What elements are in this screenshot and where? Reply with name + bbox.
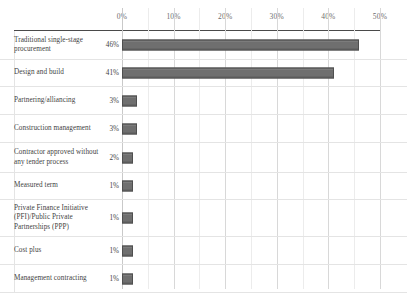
chart-row: Partnering/alliancing3% [0,87,407,115]
value-label: 3% [104,125,119,133]
value-label: 46% [104,41,119,49]
chart-row: Cost plus1% [0,237,407,265]
bar-track [122,143,395,172]
chart-row: Private Finance Initiative (PFI)/Public … [0,200,407,237]
bar [122,123,137,134]
bar-track [122,31,395,59]
bar [122,181,133,192]
category-label: Construction management [14,124,110,134]
bar [122,152,133,163]
x-axis-tick-label: 10% [166,12,180,21]
category-label: Design and build [14,68,110,78]
bar-track [122,200,395,236]
value-label: 2% [104,154,119,162]
bar [122,95,137,106]
chart-row: Construction management3% [0,115,407,143]
x-axis-tick-label: 0% [117,12,127,21]
bar-track [122,115,395,142]
x-axis-tick-labels: 0%10%20%30%40%50% [0,0,407,26]
category-label: Private Finance Initiative (PFI)/Public … [14,204,110,233]
bar [122,40,359,51]
bar [122,273,133,284]
bar-track [122,237,395,264]
chart-rows: Traditional single-stage procurement46%D… [0,31,407,293]
category-label: Measured term [14,181,110,191]
chart-row: Contractor approved without any tender p… [0,143,407,173]
bar [122,68,334,79]
chart-row: Design and build41% [0,60,407,87]
value-label: 41% [104,69,119,77]
category-label: Cost plus [14,246,110,256]
chart-row: Measured term1% [0,173,407,200]
category-label: Traditional single-stage procurement [14,36,110,55]
value-label: 1% [104,275,119,283]
x-axis-tick-label: 50% [373,12,387,21]
value-label: 1% [104,214,119,222]
value-label: 3% [104,97,119,105]
bar [122,213,133,224]
x-axis-tick-label: 30% [270,12,284,21]
chart-row: Management contracting1% [0,265,407,293]
bar [122,245,133,256]
category-label: Management contracting [14,274,110,284]
bar-track [122,60,395,86]
bar-track [122,265,395,292]
bar-track [122,87,395,114]
x-axis-tick-label: 40% [321,12,335,21]
value-label: 1% [104,182,119,190]
chart-row: Traditional single-stage procurement46% [0,31,407,60]
bar-track [122,173,395,199]
value-label: 1% [104,247,119,255]
category-label: Partnering/alliancing [14,96,110,106]
category-label: Contractor approved without any tender p… [14,148,110,167]
x-axis-tick-label: 20% [218,12,232,21]
